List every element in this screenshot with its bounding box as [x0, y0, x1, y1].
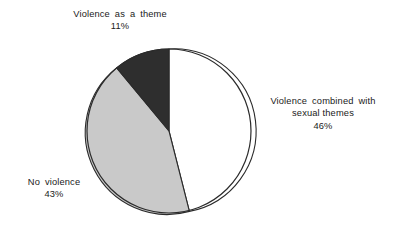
pie-label-combined-text-line2: sexual themes [248, 107, 398, 119]
pie-chart-figure: Violence as a theme 11% Violence combine… [0, 0, 402, 245]
pie-label-violence-combined-with-sexual-themes: Violence combined with sexual themes 46% [248, 95, 398, 132]
pie-label-combined-percent: 46% [248, 120, 398, 132]
pie-label-theme-text: Violence as a theme [73, 9, 167, 19]
pie-label-violence-as-a-theme: Violence as a theme 11% [40, 8, 200, 33]
pie-label-noviolence-percent: 43% [4, 188, 104, 200]
pie-label-combined-text-line1: Violence combined with [270, 96, 375, 106]
pie-label-no-violence: No violence 43% [4, 176, 104, 201]
pie-label-noviolence-text: No violence [28, 177, 80, 187]
pie-label-theme-percent: 11% [40, 20, 200, 32]
